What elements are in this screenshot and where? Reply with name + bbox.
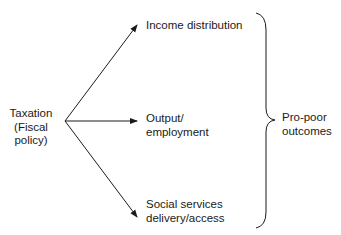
source-node-taxation: Taxation (Fiscal policy)	[4, 107, 58, 148]
outcome-line1: Pro-poor	[282, 111, 332, 125]
curly-brace	[256, 13, 275, 228]
target-node-social-services: Social services delivery/access	[146, 198, 225, 225]
source-line2: (Fiscal	[4, 121, 58, 135]
target-output-line2: employment	[146, 126, 209, 140]
target-output-line1: Output/	[146, 112, 209, 126]
arrow-to-social-services	[65, 121, 137, 217]
source-line3: policy)	[4, 134, 58, 148]
target-social-line2: delivery/access	[146, 212, 225, 226]
target-node-output-employment: Output/ employment	[146, 112, 209, 139]
outcome-line2: outcomes	[282, 125, 332, 139]
arrow-to-income-distribution	[65, 25, 137, 121]
target-node-income-distribution: Income distribution	[146, 19, 243, 33]
source-line1: Taxation	[4, 107, 58, 121]
target-income-line1: Income distribution	[146, 19, 243, 33]
target-social-line1: Social services	[146, 198, 225, 212]
outcome-node-pro-poor: Pro-poor outcomes	[282, 111, 332, 138]
